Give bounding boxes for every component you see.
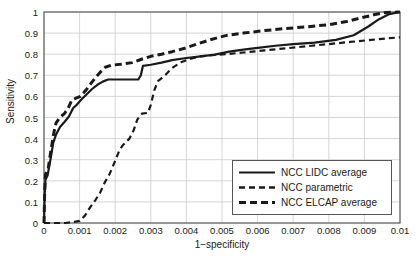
y-tick-label: 0.1 bbox=[8, 196, 38, 207]
x-tick-label: 0.003 bbox=[139, 225, 163, 236]
chart-plot-area bbox=[0, 0, 418, 256]
legend-item-1: NCC parametric bbox=[238, 180, 386, 195]
y-tick-label: 1 bbox=[8, 7, 38, 18]
legend-item-0: NCC LIDC average bbox=[238, 165, 386, 180]
legend-item-2: NCC ELCAP average bbox=[238, 195, 386, 210]
chart-legend: NCC LIDC averageNCC parametricNCC ELCAP … bbox=[232, 160, 392, 215]
legend-label: NCC parametric bbox=[281, 182, 353, 193]
legend-label: NCC LIDC average bbox=[281, 167, 367, 178]
x-tick-label: 0.006 bbox=[246, 225, 270, 236]
x-tick-label: 0.008 bbox=[317, 225, 341, 236]
y-tick-label: 0.4 bbox=[8, 133, 38, 144]
y-tick-label: 0.7 bbox=[8, 70, 38, 81]
x-tick-label: 0.005 bbox=[210, 225, 234, 236]
x-tick-label: 0.009 bbox=[353, 225, 377, 236]
y-tick-label: 0.3 bbox=[8, 154, 38, 165]
x-tick-label: 0.007 bbox=[281, 225, 305, 236]
x-tick-label: 0 bbox=[41, 225, 46, 236]
y-tick-label: 0 bbox=[8, 218, 38, 229]
y-tick-label: 0.2 bbox=[8, 175, 38, 186]
legend-label: NCC ELCAP average bbox=[281, 197, 377, 208]
x-tick-label: 0.002 bbox=[103, 225, 127, 236]
x-tick-label: 0.001 bbox=[68, 225, 92, 236]
x-tick-label: 0.01 bbox=[391, 225, 410, 236]
y-tick-label: 0.9 bbox=[8, 28, 38, 39]
y-tick-label: 0.6 bbox=[8, 91, 38, 102]
legend-swatch-icon bbox=[238, 182, 276, 193]
y-tick-label: 0.8 bbox=[8, 49, 38, 60]
roc-chart-figure: Sensitivity 1−specificity 00.0010.0020.0… bbox=[0, 0, 418, 256]
x-axis-label: 1−specificity bbox=[44, 239, 400, 250]
x-tick-label: 0.004 bbox=[175, 225, 199, 236]
legend-swatch-icon bbox=[238, 197, 276, 208]
legend-swatch-icon bbox=[238, 167, 276, 178]
y-tick-label: 0.5 bbox=[8, 112, 38, 123]
